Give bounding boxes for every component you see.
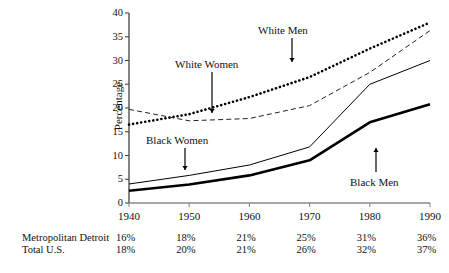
table-row-label: Total U.S. bbox=[22, 244, 65, 255]
table-cell: 37% bbox=[417, 244, 436, 255]
annotation-white-men: White Men bbox=[258, 24, 308, 36]
series-line-black-women bbox=[129, 61, 430, 185]
table-cell: 18% bbox=[176, 232, 195, 243]
table-cell: 21% bbox=[236, 232, 255, 243]
y-tick-label: 0 bbox=[99, 198, 123, 209]
annotation-white-women: White Women bbox=[175, 58, 238, 70]
chart-figure: Percentage 4035302520151050 194019501960… bbox=[0, 0, 449, 273]
table-cell: 25% bbox=[297, 232, 316, 243]
annotation-black-men: Black Men bbox=[350, 176, 399, 188]
table-row: Metropolitan Detroit16%18%21%25%31%36% bbox=[0, 232, 449, 244]
y-tick-label: 5 bbox=[99, 174, 123, 185]
x-tick-label: 1990 bbox=[408, 211, 449, 222]
table-cell: 18% bbox=[116, 244, 135, 255]
y-tick-label: 20 bbox=[99, 103, 123, 114]
table-cell: 32% bbox=[357, 244, 376, 255]
y-tick-label: 30 bbox=[99, 56, 123, 67]
x-tick-label: 1950 bbox=[167, 211, 211, 222]
table-cell: 26% bbox=[297, 244, 316, 255]
table-cell: 21% bbox=[236, 244, 255, 255]
y-tick-label: 15 bbox=[99, 127, 123, 138]
table-cell: 36% bbox=[417, 232, 436, 243]
x-tick-label: 1940 bbox=[107, 211, 151, 222]
series-line-white-men bbox=[129, 23, 430, 125]
table-cell: 16% bbox=[116, 232, 135, 243]
x-tick-label: 1960 bbox=[227, 211, 271, 222]
y-tick-label: 40 bbox=[99, 8, 123, 19]
x-tick-label: 1980 bbox=[348, 211, 392, 222]
annotation-black-women: Black Women bbox=[146, 134, 208, 146]
y-tick-label: 25 bbox=[99, 79, 123, 90]
y-tick-label: 10 bbox=[99, 151, 123, 162]
table-row: Total U.S.18%20%21%26%32%37% bbox=[0, 244, 449, 256]
table-row-label: Metropolitan Detroit bbox=[22, 232, 109, 243]
table-cell: 31% bbox=[357, 232, 376, 243]
x-tick-label: 1970 bbox=[288, 211, 332, 222]
table-cell: 20% bbox=[176, 244, 195, 255]
series-line-white-women bbox=[129, 31, 430, 121]
y-tick-label: 35 bbox=[99, 32, 123, 43]
data-table: Metropolitan Detroit16%18%21%25%31%36%To… bbox=[0, 232, 449, 256]
